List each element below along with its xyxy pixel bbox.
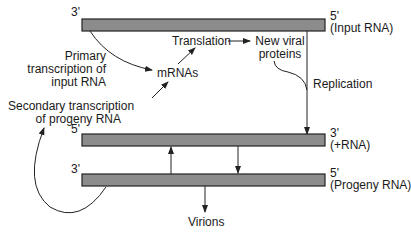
replication-label: Replication [313, 78, 372, 91]
mrnas-label: mRNAs [157, 67, 198, 80]
input-rna-strand [82, 19, 325, 31]
plus-strand-label: (+RNA) [330, 139, 370, 152]
plus-rna-strand [82, 134, 325, 146]
progeny-rna-strand [82, 174, 325, 186]
new-viral-proteins-label: New viral proteins [250, 35, 310, 61]
new-viral-line-2: proteins [250, 48, 310, 61]
primary-transcription-label: Primary transcription of input RNA [22, 50, 106, 89]
mrna-to-translation-arrow [178, 48, 195, 64]
input-strand-label: (Input RNA) [330, 22, 393, 35]
progeny-strand-label: (Progeny RNA) [330, 179, 411, 192]
viral-rna-replication-diagram: 3' 5' (Input RNA) 5' 3' (+RNA) 3' 5' (Pr… [0, 0, 411, 237]
secondary-to-mrna-arrow [152, 82, 168, 98]
input-strand-left-end: 3' [71, 6, 80, 19]
secondary-transcription-label: Secondary transcription of progeny RNA [8, 100, 121, 126]
virions-label: Virions [188, 216, 224, 229]
translation-label: Translation [172, 35, 231, 48]
proteins-to-replication-curve [274, 61, 307, 90]
primary-transcription-line-3: input RNA [22, 76, 106, 89]
secondary-transcription-line-2: of progeny RNA [8, 113, 121, 126]
progeny-strand-left-end: 3' [71, 163, 80, 176]
